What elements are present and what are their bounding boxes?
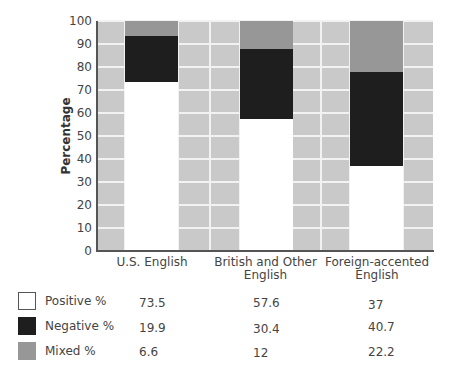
y-axis-line	[96, 21, 98, 252]
negative-swatch-icon	[18, 317, 36, 335]
y-tick-label: 100	[64, 15, 92, 27]
y-tick-label: 70	[64, 84, 92, 96]
y-tick-label: 10	[64, 222, 92, 234]
value-positive-us: 73.5	[139, 296, 166, 310]
value-positive-british: 57.6	[253, 296, 280, 310]
plot-area	[97, 21, 433, 251]
y-tick-label: 90	[64, 38, 92, 50]
value-mixed-british: 12	[253, 346, 268, 360]
positive-swatch-icon	[18, 292, 36, 310]
x-label-us-english: U.S. English	[97, 256, 207, 269]
vertical-gridline	[320, 21, 322, 251]
y-axis-label: Percentage	[59, 97, 73, 174]
legend-label: Mixed %	[45, 344, 96, 358]
y-tick-label: 0	[64, 245, 92, 257]
value-mixed-us: 6.6	[139, 345, 158, 359]
x-label-foreign-accented-english: Foreign-accented English	[321, 256, 433, 282]
bar-segment-positive	[240, 119, 293, 251]
x-label-british-english: British and Other English	[210, 256, 321, 282]
value-mixed-foreign: 22.2	[368, 345, 395, 359]
bar-segment-negative	[350, 72, 403, 166]
bar-segment-positive	[125, 82, 178, 251]
value-positive-foreign: 37	[368, 298, 383, 312]
value-negative-british: 30.4	[253, 322, 280, 336]
vertical-gridline	[209, 21, 211, 251]
bar-segment-mixed	[350, 21, 403, 72]
x-axis-line	[96, 250, 434, 252]
bar-segment-negative	[125, 36, 178, 82]
bar-segment-mixed	[240, 21, 293, 49]
value-negative-us: 19.9	[139, 321, 166, 335]
mixed-swatch-icon	[18, 342, 36, 360]
bar-segment-positive	[350, 166, 403, 251]
legend-label: Positive %	[45, 294, 106, 308]
y-tick-label: 20	[64, 199, 92, 211]
y-tick-label: 80	[64, 61, 92, 73]
legend-label: Negative %	[45, 319, 114, 333]
bar-segment-negative	[240, 49, 293, 119]
y-tick-label: 30	[64, 176, 92, 188]
value-negative-foreign: 40.7	[368, 320, 395, 334]
bar-segment-mixed	[125, 21, 178, 36]
